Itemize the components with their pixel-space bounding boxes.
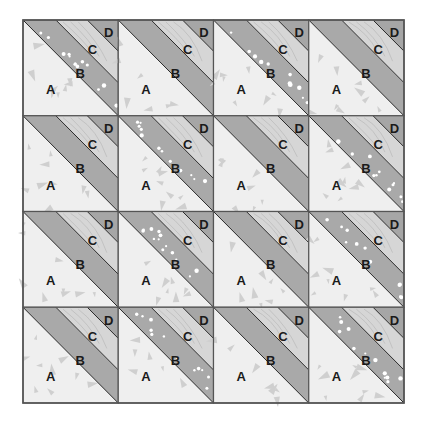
patch-label-b: B bbox=[266, 353, 275, 368]
quilt-block: ABCD bbox=[23, 307, 118, 403]
patch-label-c: C bbox=[183, 137, 193, 152]
fabric-dot bbox=[339, 320, 343, 324]
fabric-dot bbox=[149, 318, 153, 322]
patch-label-c: C bbox=[374, 233, 384, 248]
patch-label-a: A bbox=[141, 273, 151, 288]
fabric-dot bbox=[138, 125, 141, 128]
patch-label-d: D bbox=[295, 313, 304, 328]
quilt-block: ABCD bbox=[21, 116, 118, 213]
patch-label-b: B bbox=[266, 161, 275, 176]
patch-label-d: D bbox=[104, 313, 113, 328]
fabric-dot bbox=[325, 218, 329, 222]
patch-label-a: A bbox=[236, 369, 246, 384]
patch-label-c: C bbox=[88, 329, 98, 344]
fabric-dot bbox=[141, 315, 143, 317]
fabric-dot bbox=[302, 97, 304, 99]
patch-label-b: B bbox=[75, 353, 84, 368]
quilt-blocks: ABCDABCDABCDABCDABCDABCDABCDABCDABCDABCD… bbox=[18, 20, 404, 407]
fabric-dot bbox=[372, 174, 375, 177]
fabric-dot bbox=[387, 188, 391, 192]
fabric-dot bbox=[150, 227, 154, 231]
fabric-dot bbox=[297, 86, 301, 90]
patch-label-a: A bbox=[46, 273, 56, 288]
fabric-dot bbox=[201, 369, 203, 371]
patch-label-b: B bbox=[171, 66, 180, 81]
fabric-dot bbox=[373, 358, 377, 362]
patch-label-c: C bbox=[88, 233, 98, 248]
fabric-dot bbox=[81, 60, 85, 64]
quilt-block: ABCD bbox=[309, 116, 404, 212]
fabric-dot bbox=[86, 63, 89, 66]
patch-label-a: A bbox=[332, 82, 342, 97]
fabric-dot bbox=[288, 83, 293, 88]
quilt-block: ABCD bbox=[308, 20, 404, 116]
fabric-dot bbox=[385, 375, 389, 379]
fabric-dot bbox=[68, 53, 71, 56]
patch-label-c: C bbox=[88, 42, 98, 57]
patch-label-a: A bbox=[236, 178, 246, 193]
patch-label-a: A bbox=[236, 82, 246, 97]
patch-label-d: D bbox=[199, 217, 208, 232]
patch-label-d: D bbox=[104, 217, 113, 232]
patch-label-a: A bbox=[332, 178, 342, 193]
fabric-dot bbox=[383, 371, 387, 375]
patch-label-c: C bbox=[374, 329, 384, 344]
fabric-dot bbox=[161, 150, 164, 153]
fabric-dot bbox=[190, 174, 192, 176]
quilt-block: ABCD bbox=[206, 307, 309, 407]
fabric-motif bbox=[18, 231, 25, 236]
patch-label-a: A bbox=[332, 273, 342, 288]
quilt-block: ABCD bbox=[210, 20, 309, 118]
patch-label-a: A bbox=[46, 178, 56, 193]
fabric-dot bbox=[47, 36, 50, 39]
fabric-dot bbox=[259, 60, 263, 64]
patch-label-d: D bbox=[295, 25, 304, 40]
patch-label-c: C bbox=[183, 329, 193, 344]
patch-label-b: B bbox=[361, 257, 370, 272]
patch-label-d: D bbox=[199, 313, 208, 328]
quilt-block: ABCD bbox=[118, 116, 213, 212]
fabric-dot bbox=[193, 178, 195, 180]
patch-label-d: D bbox=[199, 25, 208, 40]
fabric-dot bbox=[102, 83, 106, 87]
patch-label-b: B bbox=[266, 257, 275, 272]
fabric-dot bbox=[189, 275, 191, 277]
quilt-block: ABCD bbox=[118, 307, 213, 403]
quilt-block: ABCD bbox=[306, 212, 404, 308]
fabric-dot bbox=[339, 316, 342, 319]
quilt-block: ABCD bbox=[112, 20, 214, 116]
fabric-dot bbox=[203, 179, 207, 183]
fabric-dot bbox=[347, 327, 351, 331]
fabric-dot bbox=[149, 329, 152, 332]
patch-label-d: D bbox=[390, 121, 399, 136]
fabric-dot bbox=[247, 50, 251, 54]
fabric-dot bbox=[141, 229, 145, 233]
fabric-dot bbox=[39, 32, 42, 35]
patch-label-a: A bbox=[141, 178, 151, 193]
fabric-dot bbox=[378, 170, 381, 173]
patch-label-c: C bbox=[278, 137, 288, 152]
patch-label-d: D bbox=[295, 121, 304, 136]
fabric-dot bbox=[386, 380, 389, 383]
patch-label-d: D bbox=[390, 217, 399, 232]
fabric-dot bbox=[392, 183, 395, 186]
patch-label-c: C bbox=[278, 329, 288, 344]
patch-label-c: C bbox=[278, 42, 288, 57]
fabric-dot bbox=[398, 376, 402, 380]
fabric-dot bbox=[62, 52, 66, 56]
fabric-dot bbox=[375, 174, 378, 177]
patch-label-b: B bbox=[266, 66, 275, 81]
fabric-dot bbox=[399, 195, 402, 198]
fabric-dot bbox=[288, 73, 292, 77]
patch-label-a: A bbox=[46, 369, 56, 384]
patch-label-a: A bbox=[141, 369, 151, 384]
quilt-diagram: ABCDABCDABCDABCDABCDABCDABCDABCDABCDABCD… bbox=[0, 0, 429, 424]
quilt-block: ABCD bbox=[18, 212, 118, 308]
fabric-dot bbox=[157, 230, 160, 233]
patch-label-b: B bbox=[75, 257, 84, 272]
quilt-block: ABCD bbox=[214, 212, 309, 309]
patch-label-d: D bbox=[104, 121, 113, 136]
quilt-block: ABCD bbox=[23, 20, 119, 116]
patch-label-c: C bbox=[183, 233, 193, 248]
patch-label-b: B bbox=[75, 66, 84, 81]
